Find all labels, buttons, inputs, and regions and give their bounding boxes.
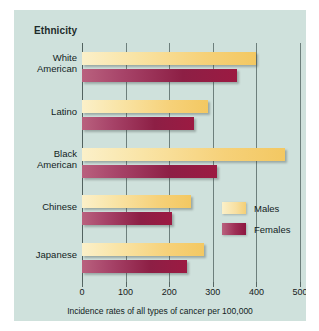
x-tick-label: 200 — [162, 287, 177, 297]
category-label-line: American — [37, 159, 77, 170]
legend-swatch-females — [222, 223, 246, 235]
category-label-line: White — [37, 52, 77, 63]
bar-females-black-american — [82, 165, 217, 178]
bar-males-black-american — [82, 148, 285, 161]
figure-root: Ethnicity WhiteAmericanLatinoBlackAmeric… — [0, 0, 319, 331]
chart-panel: Ethnicity WhiteAmericanLatinoBlackAmeric… — [14, 10, 306, 321]
category-label-line: Japanese — [36, 249, 77, 260]
category-label: Chinese — [42, 201, 77, 212]
category-label-line: Chinese — [42, 201, 77, 212]
bar-females-chinese — [82, 212, 172, 225]
category-axis-labels: WhiteAmericanLatinoBlackAmericanChineseJ… — [14, 43, 77, 282]
legend-item-males: Males — [222, 202, 290, 214]
category-label: BlackAmerican — [37, 148, 77, 170]
x-tick-label: 400 — [249, 287, 264, 297]
legend: MalesFemales — [222, 202, 290, 244]
bar-males-white-american — [82, 52, 256, 65]
x-tick-label: 0 — [79, 287, 84, 297]
x-tick-label: 100 — [118, 287, 133, 297]
category-label: Japanese — [36, 249, 77, 260]
bar-females-latino — [82, 117, 194, 130]
bar-males-chinese — [82, 195, 191, 208]
bar-males-latino — [82, 100, 208, 113]
gridline — [300, 43, 301, 282]
category-label-line: American — [37, 63, 77, 74]
legend-label: Females — [254, 224, 290, 235]
legend-swatch-males — [222, 202, 246, 214]
legend-label: Males — [254, 203, 279, 214]
category-label: WhiteAmerican — [37, 52, 77, 74]
x-axis-title: Incidence rates of all types of cancer p… — [14, 306, 306, 316]
gridline — [256, 43, 257, 282]
x-tick-label: 300 — [205, 287, 220, 297]
bar-females-japanese — [82, 260, 187, 273]
category-label: Latino — [51, 106, 77, 117]
page-title: Ethnicity — [34, 25, 77, 36]
bar-females-white-american — [82, 69, 237, 82]
legend-item-females: Females — [222, 223, 290, 235]
bar-males-japanese — [82, 243, 204, 256]
plot-area: 0100200300400500 — [82, 43, 300, 282]
category-label-line: Latino — [51, 106, 77, 117]
x-tick-label: 500 — [292, 287, 306, 297]
category-label-line: Black — [37, 148, 77, 159]
